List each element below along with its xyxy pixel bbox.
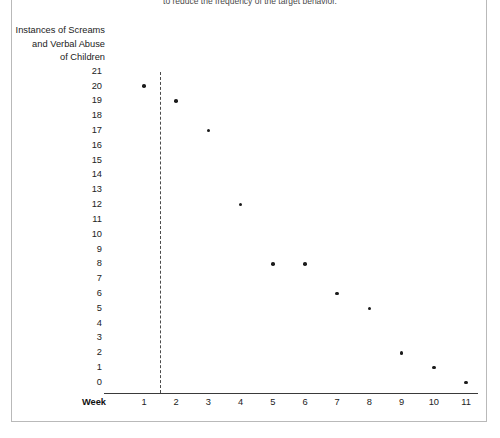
y-axis-tick-label: 6 xyxy=(62,289,102,298)
x-axis-tick-label: 8 xyxy=(357,398,381,407)
y-axis-tick-label: 4 xyxy=(62,319,102,328)
data-point xyxy=(432,366,436,370)
data-point xyxy=(368,307,372,311)
data-point xyxy=(174,99,178,103)
y-axis-tick-label: 15 xyxy=(62,156,102,165)
data-point xyxy=(335,292,339,296)
y-axis-tick-label: 17 xyxy=(62,126,102,135)
y-axis-tick-label: 11 xyxy=(62,215,102,224)
y-axis-tick-label: 0 xyxy=(62,378,102,387)
y-axis-tick-label: 19 xyxy=(62,96,102,105)
data-point xyxy=(142,84,146,88)
y-axis-tick-label: 2 xyxy=(62,348,102,357)
x-axis-tick-label: 7 xyxy=(325,398,349,407)
y-axis-tick-label: 5 xyxy=(62,304,102,313)
x-axis-label: Week xyxy=(62,398,106,407)
x-axis-tick-label: 1 xyxy=(132,398,156,407)
x-axis-tick-label: 9 xyxy=(390,398,414,407)
y-axis-tick-label: 10 xyxy=(62,230,102,239)
x-axis-tick-label: 5 xyxy=(261,398,285,407)
y-axis-tick-label: 14 xyxy=(62,170,102,179)
x-axis-tick-label: 6 xyxy=(293,398,317,407)
x-axis-tick-label: 2 xyxy=(164,398,188,407)
y-axis-tick-label: 8 xyxy=(62,259,102,268)
y-axis-tick-label: 20 xyxy=(62,82,102,91)
intervention-phase-line-icon xyxy=(160,72,161,393)
x-axis-tick-label: 4 xyxy=(229,398,253,407)
x-axis-tick-label: 10 xyxy=(422,398,446,407)
y-axis-tick-label: 12 xyxy=(62,200,102,209)
y-axis-tick-label: 7 xyxy=(62,274,102,283)
y-axis-tick-label: 21 xyxy=(62,67,102,76)
data-point xyxy=(207,129,211,133)
y-axis-tick-label: 1 xyxy=(62,363,102,372)
y-axis-tick-label: 13 xyxy=(62,185,102,194)
data-point xyxy=(303,262,307,266)
scatter-plot: 2120191817161514131211109876543210 12345… xyxy=(0,0,500,438)
x-axis-tick-label: 11 xyxy=(454,398,478,407)
y-axis-tick-label: 3 xyxy=(62,333,102,342)
x-axis-line xyxy=(104,393,478,394)
data-point xyxy=(271,262,275,266)
x-axis-tick-label: 3 xyxy=(196,398,220,407)
data-point xyxy=(239,203,243,207)
data-point xyxy=(464,381,468,385)
y-axis-tick-label: 9 xyxy=(62,245,102,254)
y-axis-tick-label: 18 xyxy=(62,111,102,120)
y-axis-tick-label: 16 xyxy=(62,141,102,150)
data-point xyxy=(400,351,404,355)
